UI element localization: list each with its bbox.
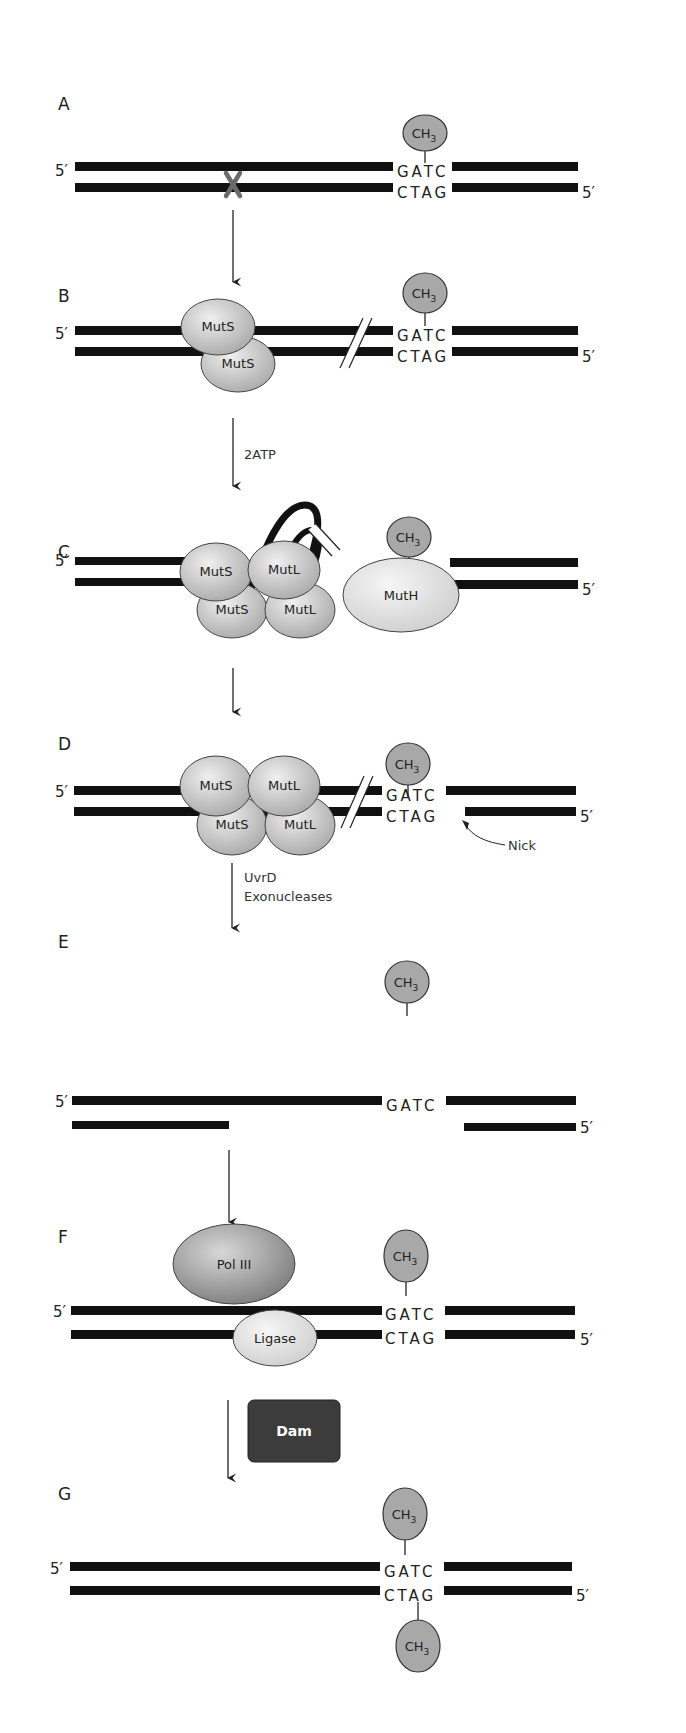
top-strand (452, 162, 578, 171)
panel-label-e: E (58, 932, 69, 952)
panel-a: A CH3 5′ GATC CTAG 5′ (55, 94, 596, 202)
bottom-strand (452, 183, 578, 192)
five-prime-label: 5′ (580, 1119, 594, 1137)
top-sequence: GATC (386, 787, 437, 805)
panel-c: C 5′ 5′ CH3 MutH MutS (55, 505, 596, 638)
five-prime-label: 5′ (582, 581, 596, 599)
panel-g: G CH3 5′ GATC CTAG 5′ CH3 (50, 1484, 590, 1672)
dam-label: Dam (276, 1423, 312, 1439)
bottom-sequence: CTAG (386, 808, 438, 826)
five-prime-label: 5′ (580, 1331, 594, 1349)
top-strand (75, 162, 393, 171)
svg-text:MutL: MutL (284, 602, 317, 617)
svg-text:MutL: MutL (268, 778, 301, 793)
panel-e-strands: 5′ GATC 5′ (55, 1093, 594, 1137)
protein-pol-iii: Pol III (173, 1224, 295, 1304)
five-prime-label: 5′ (55, 783, 69, 801)
panel-f: F CH3 Pol III 5′ GATC CTAG 5′ Ligase (53, 1224, 594, 1366)
bottom-sequence: CTAG (384, 1587, 436, 1605)
panel-label-d: D (58, 734, 71, 754)
step-label: UvrD (244, 870, 277, 885)
svg-text:MutL: MutL (268, 562, 301, 577)
five-prime-label: 5′ (50, 1560, 64, 1578)
five-prime-label: 5′ (582, 184, 596, 202)
methyl-group: CH3 (387, 517, 431, 562)
methyl-group: CH3 (384, 1230, 428, 1296)
svg-text:Pol III: Pol III (217, 1257, 252, 1272)
panel-label-a: A (58, 94, 70, 114)
svg-text:MutL: MutL (284, 817, 317, 832)
five-prime-label: 5′ (55, 552, 69, 570)
svg-text:MutS: MutS (222, 356, 255, 371)
panel-b: B CH3 5′ GATC CTAG 5′ MutS MutS (55, 273, 596, 392)
five-prime-label: 5′ (580, 808, 594, 826)
nicked-strand (465, 807, 576, 816)
panel-label-f: F (58, 1227, 68, 1247)
panel-d: D CH3 5′ GATC CTAG 5′ MutS MutL MutS (55, 734, 594, 855)
bottom-sequence: CTAG (397, 184, 449, 202)
protein-muts: MutS (180, 756, 252, 816)
dam-enzyme-box: Dam (248, 1400, 340, 1462)
five-prime-label: 5′ (576, 1587, 590, 1605)
top-sequence: GATC (397, 327, 448, 345)
excised-strand-left (72, 1121, 229, 1129)
panel-label-g: G (58, 1484, 71, 1504)
svg-text:MutS: MutS (200, 778, 233, 793)
break-marker-icon (340, 318, 372, 368)
mismatch-repair-diagram: A CH3 5′ GATC CTAG 5′ B CH3 5′ GATC (0, 0, 686, 1733)
bottom-sequence: CTAG (385, 1330, 437, 1348)
nick-pointer: Nick (462, 820, 536, 853)
methyl-group: CH3 (403, 273, 447, 326)
protein-ligase: Ligase (233, 1310, 317, 1366)
protein-mutl: MutL (248, 541, 320, 599)
break-marker-icon (341, 776, 373, 828)
step-label: 2ATP (244, 447, 276, 462)
five-prime-label: 5′ (582, 348, 596, 366)
protein-muts: MutS (181, 299, 255, 355)
five-prime-label: 5′ (53, 1303, 67, 1321)
svg-text:MutS: MutS (216, 817, 249, 832)
top-sequence: GATC (397, 163, 448, 181)
top-sequence: GATC (386, 1097, 437, 1115)
bottom-sequence: CTAG (397, 348, 449, 366)
panel-label-b: B (58, 286, 70, 306)
step-label: Exonucleases (244, 889, 332, 904)
svg-text:MutS: MutS (202, 319, 235, 334)
svg-text:MutH: MutH (384, 588, 418, 603)
methyl-group: CH3 (385, 961, 429, 1016)
nick-label: Nick (508, 838, 536, 853)
five-prime-label: 5′ (55, 1093, 69, 1111)
protein-muth: MutH (343, 558, 459, 632)
svg-text:MutS: MutS (216, 602, 249, 617)
methyl-group: CH3 (403, 115, 447, 163)
protein-mutl: MutL (248, 756, 320, 816)
five-prime-label: 5′ (55, 162, 69, 180)
svg-text:Ligase: Ligase (254, 1331, 296, 1346)
svg-text:MutS: MutS (200, 564, 233, 579)
panel-e: E CH3 5′ (58, 932, 429, 1016)
top-sequence: GATC (385, 1306, 436, 1324)
protein-muts: MutS (180, 543, 252, 601)
methyl-group-top: CH3 (383, 1488, 427, 1555)
excised-strand-right (464, 1123, 576, 1131)
top-sequence: GATC (384, 1563, 435, 1581)
five-prime-label: 5′ (55, 325, 69, 343)
methyl-group-bottom: CH3 (396, 1602, 440, 1672)
